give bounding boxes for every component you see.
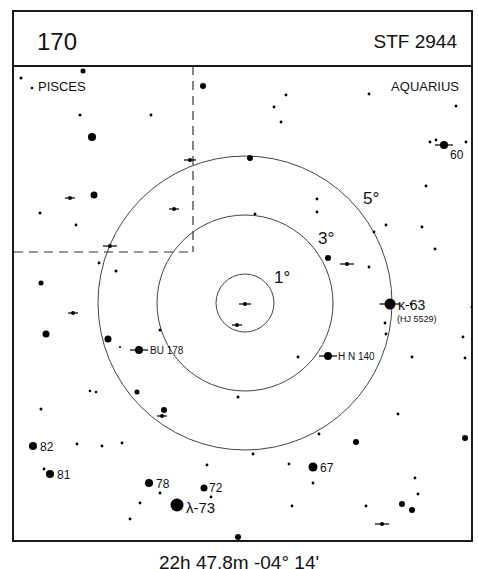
star <box>455 105 458 108</box>
star-label: 82 <box>40 440 54 454</box>
star <box>385 333 388 336</box>
star <box>384 322 387 325</box>
star-label: 67 <box>320 461 334 475</box>
star <box>247 155 253 161</box>
star <box>159 329 162 332</box>
labeled-star <box>171 499 184 512</box>
star-label: H N 140 <box>338 351 375 362</box>
star <box>252 453 255 456</box>
star <box>91 192 98 199</box>
double-star <box>68 196 72 200</box>
star <box>421 226 424 229</box>
star <box>119 346 121 348</box>
star <box>318 433 321 436</box>
labeled-star <box>385 299 396 310</box>
star <box>206 464 209 467</box>
ring-label: 5° <box>363 189 379 208</box>
star <box>79 114 82 117</box>
star <box>135 390 140 395</box>
constellation-labels: PISCESAQUARIUS <box>38 79 459 94</box>
star <box>254 213 257 216</box>
star <box>365 505 368 508</box>
star <box>43 331 50 338</box>
star <box>425 185 428 188</box>
star <box>139 502 142 505</box>
star <box>434 248 437 251</box>
star <box>312 482 315 485</box>
labeled-star <box>29 442 37 450</box>
star-label: 81 <box>57 468 71 482</box>
star <box>471 306 474 309</box>
star <box>159 492 162 495</box>
star <box>129 518 132 521</box>
labeled-star <box>440 141 448 149</box>
star <box>316 198 319 201</box>
labeled-star <box>135 346 143 354</box>
star <box>464 357 467 360</box>
coordinates: 22h 47.8m -04° 14' <box>0 552 478 569</box>
star <box>465 141 468 144</box>
labeled-star <box>145 479 153 487</box>
star <box>88 133 96 141</box>
labeled-star <box>309 463 318 472</box>
star <box>31 87 34 90</box>
star <box>39 281 44 286</box>
star <box>273 106 276 109</box>
star <box>397 413 400 416</box>
star <box>95 391 98 394</box>
star-field-map: 1°3°5° 60κ-63(HJ 5529)BU 178H N 14082817… <box>0 0 478 569</box>
star <box>210 496 213 499</box>
star <box>161 407 167 413</box>
star <box>373 231 376 234</box>
star <box>280 121 283 124</box>
double-star <box>108 244 112 248</box>
ring-label: 3° <box>318 229 334 248</box>
star-label: 60 <box>450 148 464 162</box>
star <box>39 212 42 215</box>
star <box>288 463 291 466</box>
star <box>115 270 118 273</box>
star <box>409 507 415 513</box>
star <box>462 435 468 441</box>
labeled-star <box>46 470 54 478</box>
star-label: κ-63 <box>398 297 425 313</box>
star <box>368 93 371 96</box>
star <box>325 255 331 261</box>
star-label: 72 <box>209 481 223 495</box>
star <box>414 477 417 480</box>
star <box>75 224 78 227</box>
star <box>43 468 46 471</box>
star <box>291 505 294 508</box>
star <box>76 443 79 446</box>
labeled-star <box>324 352 332 360</box>
star <box>101 445 104 448</box>
star <box>235 534 241 540</box>
double-star <box>188 158 192 162</box>
star <box>237 396 240 399</box>
star <box>200 83 206 89</box>
star <box>89 390 92 393</box>
star-label: BU 178 <box>150 345 184 356</box>
star-label: 78 <box>156 477 170 491</box>
star <box>105 336 112 343</box>
double-star <box>235 323 239 327</box>
star <box>150 114 153 117</box>
star <box>411 356 414 359</box>
star <box>316 211 319 214</box>
star <box>368 266 371 269</box>
double-star <box>172 207 176 211</box>
star <box>20 77 23 80</box>
star <box>435 139 438 142</box>
labeled-star <box>201 485 208 492</box>
star <box>462 336 465 339</box>
star <box>417 493 420 496</box>
star <box>399 501 405 507</box>
star <box>81 69 86 74</box>
star <box>385 224 388 227</box>
star <box>353 439 359 445</box>
double-stars <box>65 158 389 526</box>
ring-label: 1° <box>274 268 290 287</box>
double-star <box>345 262 349 266</box>
double-star <box>71 311 75 315</box>
double-star <box>160 414 164 418</box>
